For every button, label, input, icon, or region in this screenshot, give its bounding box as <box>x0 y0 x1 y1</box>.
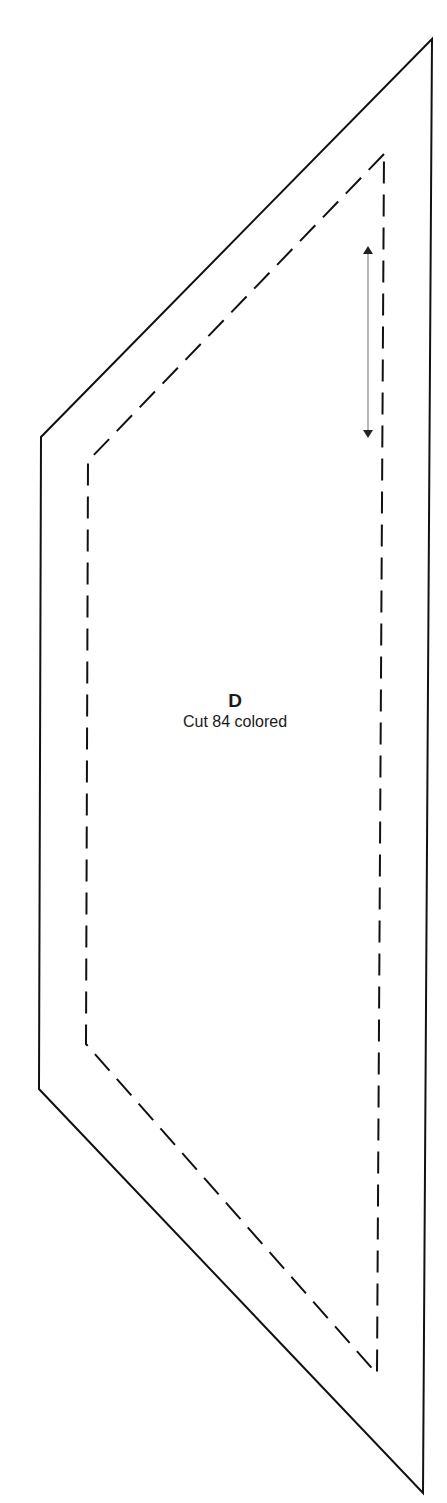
piece-letter: D <box>0 690 447 712</box>
cut-line <box>39 39 432 1493</box>
seam-line <box>86 154 384 1374</box>
cutting-instruction: Cut 84 colored <box>0 713 447 731</box>
pattern-piece-drawing <box>0 0 447 1503</box>
